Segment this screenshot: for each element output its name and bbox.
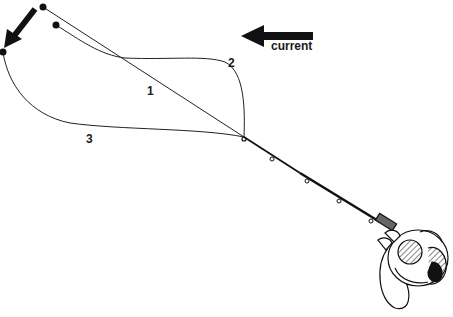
reel-and-hand — [375, 213, 448, 308]
rod-guide — [270, 157, 274, 161]
line-path-3 — [3, 52, 244, 137]
sinker-weight-1 — [40, 4, 47, 11]
sinker-weight-2 — [53, 22, 60, 29]
sinker-weight-3 — [0, 49, 7, 56]
line-path-1 — [43, 7, 244, 137]
rod-guide — [337, 199, 341, 203]
path-label-3: 3 — [86, 133, 93, 145]
current-label: current — [271, 40, 312, 52]
fishing-drift-diagram: 1 2 3 current — [0, 0, 453, 317]
path-label-1: 1 — [147, 85, 154, 97]
diagram-canvas — [0, 0, 453, 317]
line-path-2 — [56, 25, 244, 137]
path-label-2: 2 — [228, 57, 235, 69]
rod-guide — [369, 219, 373, 223]
fishing-rod — [244, 137, 380, 223]
rod-guide — [305, 179, 309, 183]
arrow-down-left-icon — [4, 9, 35, 48]
